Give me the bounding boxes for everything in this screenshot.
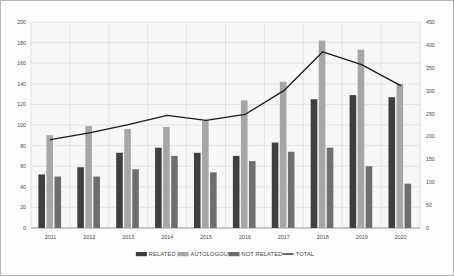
legend-swatch-icon	[178, 252, 189, 256]
left-axis-tick-label: 180	[17, 40, 26, 46]
right-axis-tick-label: 450	[426, 19, 435, 25]
left-axis-tick-label: 100	[17, 122, 26, 128]
category-label-2019: 2019	[356, 234, 368, 240]
category-label-2016: 2016	[239, 234, 251, 240]
right-axis-tick-label: 250	[426, 111, 435, 117]
bar-not-related-2011	[54, 177, 61, 229]
left-axis-tick-label: 40	[20, 184, 26, 190]
chart-container: 020406080100120140160180200 050100150200…	[0, 0, 454, 276]
left-axis-tick-label: 0	[23, 225, 26, 231]
bar-not-related-2018	[327, 148, 334, 228]
legend-label: TOTAL	[296, 251, 315, 257]
bar-related-2019	[350, 95, 357, 228]
bar-related-2017	[272, 143, 279, 228]
bar-not-related-2016	[249, 161, 256, 228]
bar-related-2013	[116, 153, 123, 228]
category-label-2018: 2018	[317, 234, 329, 240]
bar-not-related-2012	[93, 177, 100, 229]
right-axis-tick-label: 300	[426, 88, 435, 94]
left-axis-tick-label: 120	[17, 101, 26, 107]
bar-not-related-2014	[171, 156, 178, 228]
bar-autologous-2017	[280, 82, 287, 228]
bar-related-2020	[388, 97, 395, 228]
bar-autologous-2020	[397, 84, 404, 228]
left-axis-tick-label: 60	[20, 163, 26, 169]
category-label-2012: 2012	[83, 234, 95, 240]
grouped-bar-line-chart: 020406080100120140160180200 050100150200…	[0, 0, 454, 276]
category-label-2015: 2015	[200, 234, 212, 240]
right-axis-tick-label: 200	[426, 133, 435, 139]
bar-autologous-2015	[202, 121, 209, 228]
left-axis-tick-label: 20	[20, 204, 26, 210]
bar-not-related-2013	[132, 169, 139, 228]
bar-autologous-2012	[85, 126, 92, 228]
bar-autologous-2019	[358, 50, 365, 228]
bar-related-2016	[233, 156, 240, 228]
category-label-2017: 2017	[278, 234, 290, 240]
bar-related-2015	[194, 153, 201, 228]
bar-related-2014	[155, 148, 162, 228]
legend-label: RELATED	[149, 251, 176, 257]
bar-not-related-2015	[210, 172, 217, 228]
category-label-2011: 2011	[45, 234, 57, 240]
legend-swatch-icon	[136, 252, 147, 256]
legend-label: AUTOLOGOUS	[191, 251, 232, 257]
bar-not-related-2020	[405, 184, 412, 228]
bar-autologous-2011	[46, 135, 53, 228]
bar-autologous-2013	[124, 129, 131, 228]
bar-not-related-2017	[288, 152, 295, 228]
legend-swatch-icon	[229, 252, 240, 256]
bar-related-2018	[311, 99, 318, 228]
right-axis-tick-label: 350	[426, 65, 435, 71]
left-axis-tick-label: 140	[17, 81, 26, 87]
bar-autologous-2018	[319, 41, 326, 228]
right-axis-tick-label: 150	[426, 156, 435, 162]
left-axis-tick-label: 200	[17, 19, 26, 25]
left-axis-tick-label: 160	[17, 60, 26, 66]
bar-autologous-2014	[163, 127, 170, 228]
bar-not-related-2019	[366, 166, 373, 228]
category-label-2020: 2020	[395, 234, 407, 240]
right-axis-tick-label: 400	[426, 42, 435, 48]
category-label-2014: 2014	[161, 234, 173, 240]
bar-related-2011	[38, 174, 45, 228]
bar-related-2012	[77, 167, 84, 228]
category-label-2013: 2013	[122, 234, 134, 240]
right-axis-tick-label: 100	[426, 179, 435, 185]
bar-autologous-2016	[241, 100, 248, 228]
left-axis-tick-label: 80	[20, 143, 26, 149]
right-axis-tick-label: 50	[426, 202, 432, 208]
legend-label: NOT RELATED	[242, 251, 283, 257]
right-axis-tick-label: 0	[426, 225, 429, 231]
